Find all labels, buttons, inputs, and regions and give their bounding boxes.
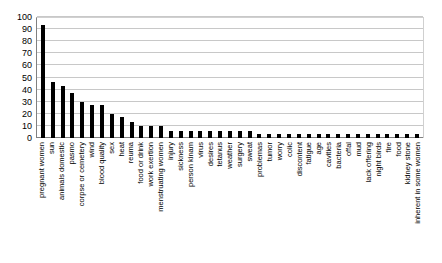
y-axis: 0102030405060708090100 <box>0 17 34 138</box>
x-label-slot: person kinam <box>185 139 195 263</box>
x-label-slot: animals domestic <box>57 139 67 263</box>
x-tick-label: desires <box>207 142 215 166</box>
bar <box>179 131 183 138</box>
x-tick-label: injury <box>167 142 175 160</box>
x-tick-label: sickness <box>177 142 185 171</box>
bar-slot <box>176 18 186 138</box>
bar <box>130 122 134 138</box>
x-label-slot: mud <box>354 139 364 263</box>
bar <box>277 134 281 138</box>
x-label-slot: pasmo <box>67 139 77 263</box>
x-label-slot: worry <box>274 139 284 263</box>
x-label-slot: night birds <box>373 139 383 263</box>
x-tick-label: lack offering <box>365 142 373 182</box>
x-tick-label: sweat <box>246 142 254 162</box>
x-label-slot: reuma <box>126 139 136 263</box>
bar-slot <box>107 18 117 138</box>
bar-slot <box>68 18 78 138</box>
bar <box>405 134 409 138</box>
y-tick-label: 10 <box>22 121 32 130</box>
x-label-slot: corpse or cemetery <box>77 139 87 263</box>
bar-slot <box>412 18 422 138</box>
x-tick-label: inherent in some women <box>414 142 422 224</box>
bar-slot <box>186 18 196 138</box>
y-tick-label: 90 <box>22 25 32 34</box>
x-tick-label: reuma <box>127 142 135 163</box>
x-label-slot: food or drink <box>136 139 146 263</box>
x-label-slot: cavities <box>324 139 334 263</box>
bar-slot <box>235 18 245 138</box>
y-tick-label: 60 <box>22 61 32 70</box>
bar-slot <box>343 18 353 138</box>
bar-slot <box>117 18 127 138</box>
y-tick-label: 40 <box>22 85 32 94</box>
bar <box>100 105 104 138</box>
x-tick-label: cavities <box>325 142 333 167</box>
x-label-slot: surgery <box>235 139 245 263</box>
bar <box>110 114 114 138</box>
x-label-slot: heat <box>116 139 126 263</box>
bar-slot <box>38 18 48 138</box>
bar-slot <box>166 18 176 138</box>
x-tick-label: night birds <box>375 142 383 177</box>
x-label-slot: pregnant women <box>37 139 47 263</box>
bar <box>248 131 252 138</box>
bar-slot <box>383 18 393 138</box>
bar <box>80 102 84 138</box>
gridline-100 <box>37 16 423 17</box>
bar-slot <box>402 18 412 138</box>
x-tick-label: person kinam <box>187 142 195 187</box>
x-tick-label: work exertion <box>147 142 155 187</box>
x-label-slot: sun <box>47 139 57 263</box>
x-label-slot: discontent <box>294 139 304 263</box>
x-label-slot: inherent in some women <box>413 139 423 263</box>
x-tick-label: sex <box>108 142 116 154</box>
bar <box>415 134 419 138</box>
x-label-slot: weather <box>225 139 235 263</box>
bar-slot <box>146 18 156 138</box>
x-tick-label: pasmo <box>68 142 76 165</box>
y-tick-label: 80 <box>22 37 32 46</box>
bar <box>317 134 321 138</box>
x-label-slot: desires <box>205 139 215 263</box>
x-tick-label: fatigue <box>305 142 313 165</box>
bar-slot <box>87 18 97 138</box>
bar-slot <box>392 18 402 138</box>
bars-container <box>37 18 423 138</box>
bar <box>238 131 242 138</box>
y-tick-label: 20 <box>22 109 32 118</box>
x-label-slot: virus <box>195 139 205 263</box>
bar <box>267 134 271 138</box>
bar-slot <box>58 18 68 138</box>
x-tick-label: surgery <box>236 142 244 167</box>
x-label-slot: wind <box>86 139 96 263</box>
bar-slot <box>77 18 87 138</box>
x-tick-label: food or drink <box>137 142 145 184</box>
x-tick-label: animals domestic <box>58 142 66 200</box>
bar <box>169 131 173 138</box>
bar <box>376 134 380 138</box>
bar <box>287 134 291 138</box>
x-tick-label: discontent <box>296 142 304 176</box>
x-tick-label: tumor <box>266 142 274 161</box>
x-label-slot: sex <box>106 139 116 263</box>
x-tick-label: sun <box>48 142 56 154</box>
bar <box>385 134 389 138</box>
x-label-slot: offal <box>344 139 354 263</box>
bar-slot <box>363 18 373 138</box>
x-label-slot: lack offering <box>363 139 373 263</box>
bar-slot <box>294 18 304 138</box>
bar <box>159 126 163 138</box>
bar-slot <box>373 18 383 138</box>
y-tick-label: 100 <box>17 13 32 22</box>
x-label-slot: injury <box>166 139 176 263</box>
x-label-slot: problemas <box>255 139 265 263</box>
bar-slot <box>353 18 363 138</box>
x-tick-label: wind <box>88 142 96 157</box>
x-tick-label: age <box>315 142 323 155</box>
x-tick-label: fire <box>385 142 393 152</box>
bar-slot <box>196 18 206 138</box>
x-label-slot: sweat <box>245 139 255 263</box>
bar-slot <box>215 18 225 138</box>
bar <box>346 134 350 138</box>
